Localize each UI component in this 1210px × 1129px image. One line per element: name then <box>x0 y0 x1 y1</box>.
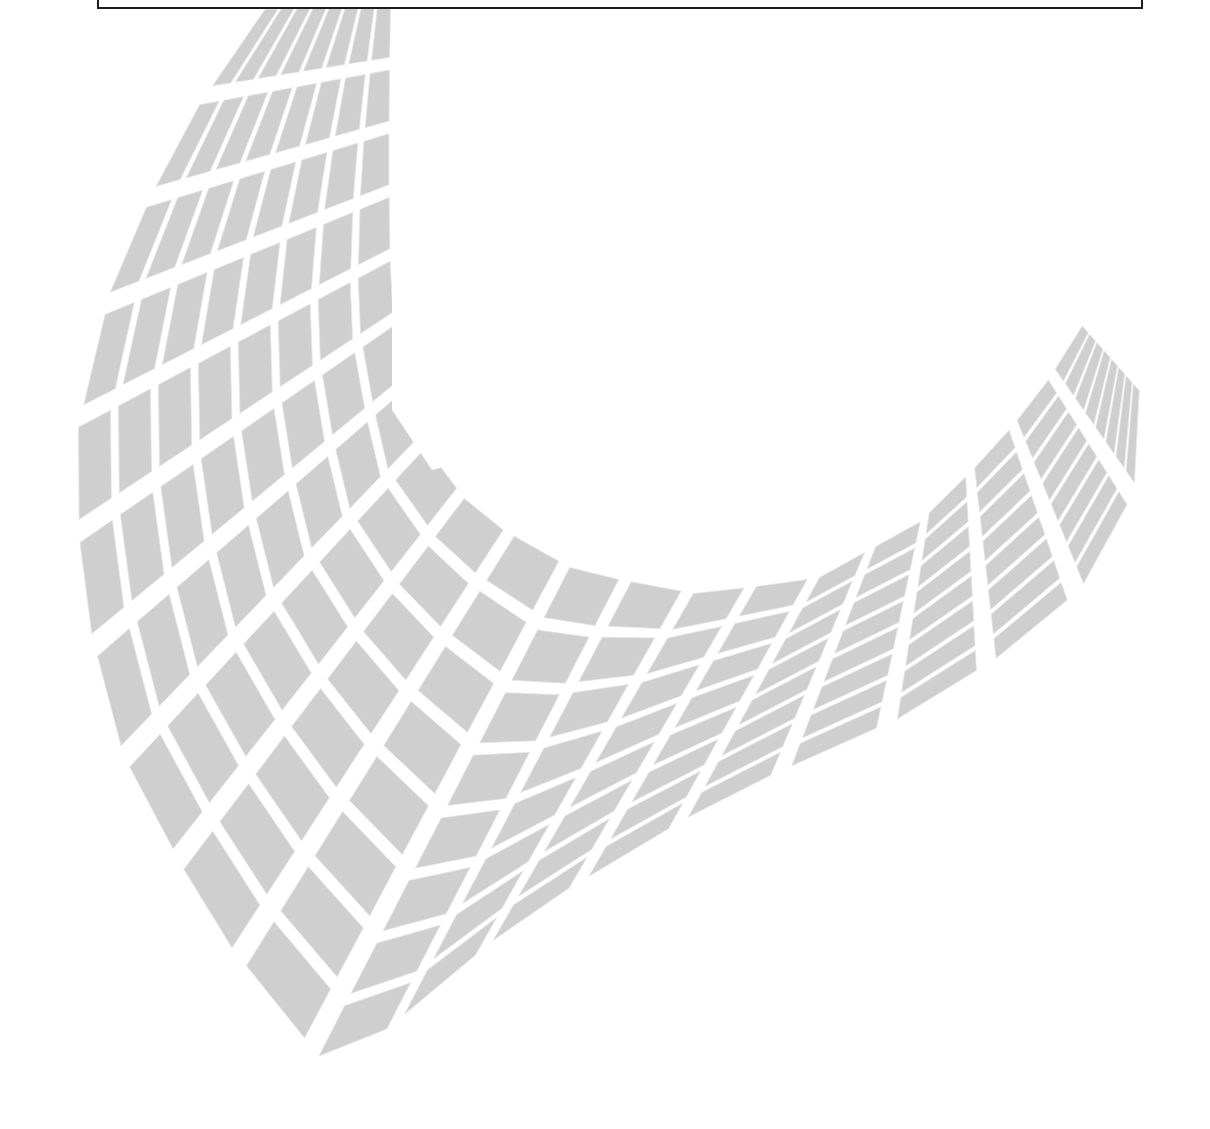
tile <box>241 243 280 325</box>
tile <box>318 283 352 361</box>
tile <box>376 388 419 469</box>
tile <box>319 213 352 285</box>
tile <box>436 499 504 573</box>
tile <box>363 325 405 402</box>
tile <box>79 410 112 519</box>
tile <box>217 525 266 627</box>
tile <box>673 588 744 629</box>
tile <box>448 752 530 805</box>
tile <box>480 693 560 743</box>
tile <box>119 389 152 493</box>
tile <box>120 492 164 600</box>
tile <box>256 491 304 588</box>
tile <box>278 304 312 387</box>
document-page <box>0 0 1210 1129</box>
tile <box>608 582 681 629</box>
saddle-surface-graphic <box>0 0 1210 1129</box>
tile <box>161 464 204 567</box>
tile <box>365 70 389 128</box>
header-box <box>97 0 1143 9</box>
tile <box>84 303 134 405</box>
tile <box>487 536 559 610</box>
tile <box>319 983 411 1056</box>
tile <box>452 591 526 671</box>
tile <box>202 258 244 345</box>
tile <box>359 198 390 265</box>
tile <box>325 143 358 209</box>
tile <box>372 6 391 60</box>
tile <box>579 637 655 681</box>
tile <box>123 288 171 385</box>
tile <box>739 580 807 617</box>
tile <box>238 325 272 413</box>
tile <box>544 567 619 625</box>
tile <box>358 261 393 333</box>
tile <box>336 422 381 508</box>
tile <box>512 630 589 683</box>
tile <box>158 368 191 467</box>
tile <box>80 520 124 634</box>
tile <box>198 346 232 439</box>
tile <box>296 456 342 547</box>
tile <box>177 560 228 667</box>
tile <box>360 134 389 196</box>
tile <box>280 228 316 305</box>
tile <box>718 612 789 654</box>
tile <box>323 353 365 435</box>
tile <box>242 409 285 502</box>
tile-grid <box>79 6 1140 1056</box>
tile <box>201 436 244 534</box>
tile <box>162 273 207 365</box>
tile <box>282 381 325 468</box>
